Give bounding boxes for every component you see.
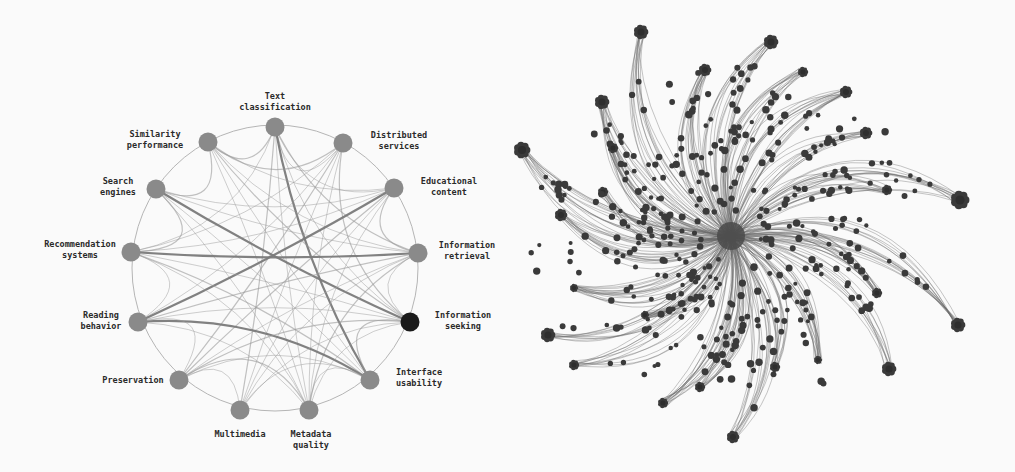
network-node (766, 335, 773, 342)
network-node (781, 111, 789, 119)
network-node (760, 309, 766, 315)
network-node (790, 245, 796, 251)
network-node (673, 161, 680, 168)
network-node (755, 317, 761, 323)
cluster-core (698, 385, 703, 390)
network-node (839, 252, 844, 257)
network-node (665, 226, 670, 231)
network-node (766, 253, 772, 259)
network-node (750, 120, 754, 124)
network-node (747, 383, 753, 389)
network-node (711, 142, 718, 149)
network-node (728, 375, 736, 383)
network-node (669, 346, 673, 350)
network-node (533, 267, 540, 274)
network-node (800, 224, 804, 228)
network-node (642, 186, 647, 191)
network-node (836, 125, 843, 132)
network-node (728, 300, 734, 306)
network-node (833, 142, 837, 146)
network-node (803, 340, 809, 346)
network-node (709, 302, 715, 308)
network-node (771, 371, 777, 377)
network-node (652, 177, 656, 181)
network-node (662, 258, 668, 264)
network-node (833, 266, 839, 272)
network-node (729, 196, 735, 202)
network-node (652, 364, 656, 368)
network-node (747, 64, 754, 71)
network-node (683, 259, 688, 264)
network-node (679, 229, 684, 234)
network-node (649, 297, 654, 302)
network-node (678, 146, 684, 152)
network-node (781, 318, 787, 324)
network-node (828, 216, 834, 222)
network-node (842, 216, 847, 221)
network-node (750, 404, 757, 411)
cluster-core (843, 89, 849, 95)
cluster-core (572, 286, 576, 290)
network-node (776, 272, 783, 279)
network-node (858, 307, 865, 314)
network-node (631, 294, 636, 299)
network-node (774, 318, 779, 323)
network-node (697, 243, 704, 250)
network-node (706, 263, 712, 269)
network-node (750, 137, 755, 142)
network-node (854, 263, 860, 269)
cluster-core (572, 363, 577, 368)
network-node (759, 159, 766, 166)
network-node (699, 155, 704, 160)
network-node (678, 135, 685, 142)
network-node (679, 171, 685, 177)
cluster-core (611, 146, 616, 151)
network-node (569, 241, 573, 245)
network-node (704, 172, 709, 177)
network-node (691, 251, 697, 257)
network-node (674, 153, 679, 158)
network-nodes (514, 25, 969, 443)
cluster-core (773, 365, 778, 370)
network-node (567, 186, 572, 191)
network-node (786, 291, 792, 297)
network-node (623, 151, 630, 158)
network-node (826, 191, 832, 197)
cluster-core (886, 366, 893, 373)
network-node (868, 181, 873, 186)
network-node (868, 301, 874, 307)
network-node (701, 344, 706, 349)
network-node (858, 267, 865, 274)
network-node (618, 161, 625, 168)
network-node (884, 172, 890, 178)
network-node (649, 233, 654, 238)
network-node (649, 195, 653, 199)
network-node (714, 276, 719, 281)
network-node (760, 345, 766, 351)
network-node (838, 185, 842, 189)
cluster-core (875, 291, 880, 296)
network-node (782, 201, 789, 208)
network-node (626, 224, 631, 229)
network-node (864, 223, 868, 227)
network-node (803, 308, 808, 313)
network-node (772, 93, 779, 100)
network-node (537, 243, 541, 247)
cluster-core (816, 358, 820, 362)
network-node (857, 217, 862, 222)
network-node (688, 188, 694, 194)
network-node (637, 220, 642, 225)
network-node (745, 77, 750, 82)
cluster-core (638, 29, 645, 36)
network-node (764, 223, 771, 230)
network-node (652, 161, 658, 167)
network-node (757, 213, 763, 219)
network-node (751, 188, 756, 193)
network-node (608, 297, 614, 303)
network-node (825, 135, 832, 142)
network-node (666, 307, 673, 314)
network-node (651, 206, 656, 211)
network-node (750, 263, 758, 271)
network-node (662, 273, 668, 279)
network-node (679, 238, 685, 244)
